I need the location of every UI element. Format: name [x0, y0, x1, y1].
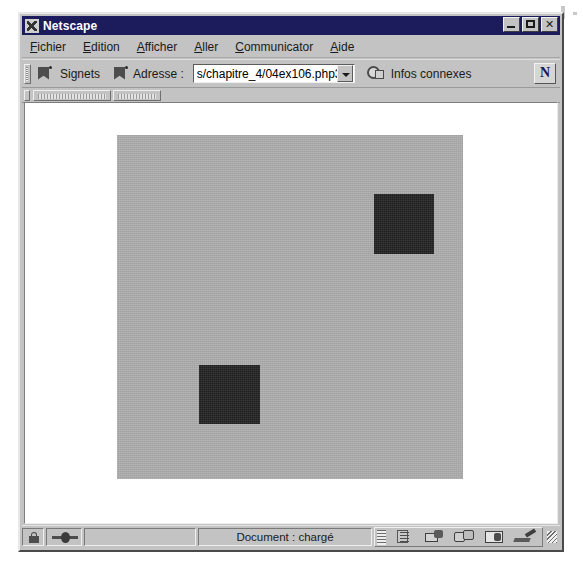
menu-label-afficher: fficher: [145, 40, 177, 54]
menu-label-edition: dition: [91, 40, 120, 54]
window-controls: [503, 17, 558, 32]
network-connection-icon[interactable]: [46, 528, 82, 546]
component-bar: [374, 527, 543, 547]
padlock-icon[interactable]: [22, 528, 44, 546]
netscape-n-logo[interactable]: N: [534, 63, 556, 84]
scan-artifact: [573, 12, 577, 15]
menu-item-aide[interactable]: Aide: [330, 39, 363, 55]
menu-label-communicator: ommunicator: [244, 40, 313, 54]
related-info-label: Infos connexes: [391, 67, 472, 81]
netscape-logo-letter: N: [535, 63, 555, 83]
address-input[interactable]: s/chapitre_4/04ex106.php3: [193, 64, 355, 83]
address-label: Adresse :: [133, 67, 184, 81]
bookmark-icon: [36, 66, 55, 82]
menu-label-aide: ide: [338, 40, 354, 54]
status-bar: Document : chargé: [22, 525, 560, 548]
personal-toolbar: [22, 88, 560, 103]
menu-label-aller: ller: [202, 40, 218, 54]
menu-item-aller[interactable]: Aller: [194, 39, 227, 55]
square-bottom-left: [199, 365, 260, 424]
resize-grip[interactable]: [545, 529, 559, 545]
bookmarks-label: Signets: [60, 67, 100, 81]
square-top-right: [374, 194, 434, 254]
address-group: Adresse :: [112, 66, 189, 82]
globe-icon: [367, 65, 386, 82]
title-bar: Netscape: [22, 16, 560, 35]
toolbar-grip[interactable]: [24, 64, 31, 84]
close-button[interactable]: [541, 17, 558, 32]
chevron-down-icon[interactable]: [337, 65, 353, 82]
personal-toolbar-item-1[interactable]: [33, 90, 111, 101]
page-proxy-icon[interactable]: [112, 66, 128, 82]
minimize-button[interactable]: [503, 17, 520, 32]
composer-icon[interactable]: [512, 529, 538, 545]
browser-window: Netscape Fichier Edition Afficher Aller: [18, 12, 564, 552]
netscape-icon: [25, 19, 39, 33]
related-info-button[interactable]: Infos connexes: [367, 65, 472, 82]
address-book-icon[interactable]: [482, 529, 508, 545]
discussion-groups-icon[interactable]: [452, 529, 478, 545]
page-canvas-image: [117, 135, 463, 479]
page-content-area: [24, 102, 558, 524]
progress-bar: [84, 528, 196, 546]
status-text: Document : chargé: [198, 528, 372, 546]
navigation-toolbar: Signets Adresse : s/chapitre_4/04ex106.p…: [22, 59, 560, 88]
menu-item-communicator[interactable]: Communicator: [235, 39, 322, 55]
mailbox-icon[interactable]: [422, 529, 448, 545]
screenshot-root: Netscape Fichier Edition Afficher Aller: [0, 0, 583, 565]
menu-item-fichier[interactable]: Fichier: [30, 39, 75, 55]
menu-item-afficher[interactable]: Afficher: [137, 39, 186, 55]
menu-bar: Fichier Edition Afficher Aller Communica…: [22, 36, 560, 58]
navigator-icon[interactable]: [392, 529, 418, 545]
window-title: Netscape: [43, 19, 97, 33]
menu-label-fichier: ichier: [37, 40, 66, 54]
personal-toolbar-item-2[interactable]: [113, 90, 161, 101]
bookmarks-button[interactable]: Signets: [36, 66, 100, 82]
component-bar-grip[interactable]: [377, 530, 386, 545]
address-value: s/chapitre_4/04ex106.php3: [197, 67, 337, 81]
maximize-button[interactable]: [522, 17, 539, 32]
personal-toolbar-grip[interactable]: [24, 90, 30, 101]
menu-item-edition[interactable]: Edition: [83, 39, 129, 55]
